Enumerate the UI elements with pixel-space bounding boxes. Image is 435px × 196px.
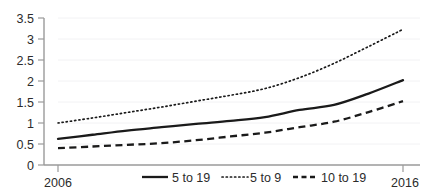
line-chart: 3.5 3 2.5 2 1.5 1 0.5 0 2006 2016 5 to 1…: [0, 0, 435, 196]
series-line-10-to-19: [58, 101, 403, 148]
y-tick-label-3: 3: [27, 33, 34, 47]
y-tick-label-0: 0: [27, 159, 34, 173]
y-tick-label-1: 1: [27, 117, 34, 131]
chart-legend: 5 to 19 5 to 9 10 to 19: [142, 171, 366, 185]
y-tick-label-2-5: 2.5: [17, 54, 34, 68]
y-tick-label-3-5: 3.5: [17, 12, 34, 26]
y-tick-label-0-5: 0.5: [17, 138, 34, 152]
series-line-5-to-19: [58, 80, 403, 139]
y-tick-label-2: 2: [27, 75, 34, 89]
legend-label-5-to-9: 5 to 9: [250, 171, 281, 185]
legend-label-5-to-19: 5 to 19: [172, 171, 210, 185]
x-tick-label-2016: 2016: [391, 176, 419, 190]
x-tick-label-2006: 2006: [44, 176, 72, 190]
y-axis-ticks: [38, 18, 44, 165]
legend-label-10-to-19: 10 to 19: [321, 171, 366, 185]
y-tick-label-1-5: 1.5: [17, 96, 34, 110]
gridlines: [58, 18, 420, 144]
chart-canvas: 3.5 3 2.5 2 1.5 1 0.5 0 2006 2016 5 to 1…: [0, 0, 435, 196]
series-line-5-to-9: [58, 29, 403, 123]
